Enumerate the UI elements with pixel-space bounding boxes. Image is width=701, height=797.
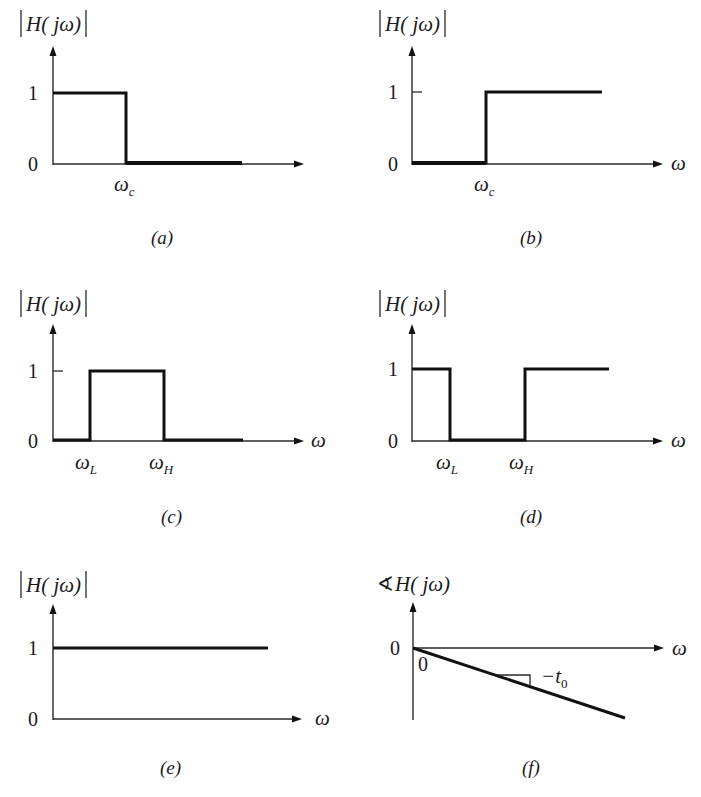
panel-f-linear-phase: ∢H( jω) 0 0 −t0 ω (f) bbox=[377, 572, 687, 779]
y-tick-0: 0 bbox=[388, 153, 398, 175]
panel-a-lowpass: H( jω) 1 0 ωc (a) bbox=[21, 10, 304, 249]
y-tick-0: 0 bbox=[388, 430, 398, 452]
panel-d-bandstop: H( jω) 1 0 ω ωL ωH (d) bbox=[380, 290, 686, 528]
y-axis-label: H( jω) bbox=[380, 10, 445, 37]
y-axis-arrow-icon bbox=[409, 324, 416, 334]
x-axis-arrow-icon bbox=[653, 438, 663, 445]
y-axis-arrow-icon bbox=[409, 46, 416, 56]
panel-b-highpass: H( jω) 1 0 ω ωc (b) bbox=[380, 10, 686, 249]
panel-e-allpass-magnitude: H( jω) 1 0 ω (e) bbox=[21, 571, 330, 779]
x-axis-label: ω bbox=[315, 706, 330, 730]
ylabel-text: H( jω) bbox=[25, 292, 81, 316]
y-axis-label: H( jω) bbox=[21, 571, 86, 598]
y-axis-arrow-icon bbox=[410, 602, 417, 612]
x-marker-wc: ωc bbox=[474, 172, 495, 199]
y-tick-0: 0 bbox=[28, 708, 38, 730]
filter-response-figure: H( jω) 1 0 ωc (a) H( jω) 1 0 ω ω bbox=[0, 0, 701, 797]
x-axis-arrow-icon bbox=[292, 716, 302, 723]
ylabel-text: H( jω) bbox=[25, 573, 81, 597]
caption-f: (f) bbox=[522, 757, 540, 779]
y-axis-label: ∢H( jω) bbox=[377, 572, 450, 596]
angle-icon: ∢ bbox=[377, 573, 394, 595]
origin-label: 0 bbox=[418, 653, 428, 675]
y-tick-1: 1 bbox=[388, 81, 398, 103]
x-marker-wh: ωH bbox=[149, 450, 174, 477]
x-axis-label: ω bbox=[311, 428, 326, 452]
y-tick-0: 0 bbox=[390, 637, 400, 659]
passband-line bbox=[486, 92, 602, 164]
y-tick-1: 1 bbox=[28, 360, 38, 382]
bandstop-response-line bbox=[412, 369, 609, 440]
panel-c-bandpass: H( jω) 1 0 ω ωL ωH (c) bbox=[21, 290, 326, 528]
y-tick-1: 1 bbox=[28, 82, 38, 104]
x-marker-wh: ωH bbox=[509, 450, 534, 477]
y-tick-1: 1 bbox=[388, 358, 398, 380]
slope-label: −t0 bbox=[541, 664, 568, 691]
y-axis-arrow-icon bbox=[50, 604, 57, 614]
y-axis-label: H( jω) bbox=[380, 290, 445, 317]
y-axis-arrow-icon bbox=[50, 324, 57, 334]
y-axis-label: H( jω) bbox=[21, 290, 86, 317]
ylabel-text: H( jω) bbox=[384, 292, 440, 316]
x-marker-wl: ωL bbox=[75, 450, 97, 477]
x-axis-arrow-icon bbox=[294, 438, 304, 445]
caption-c: (c) bbox=[161, 506, 182, 528]
caption-a: (a) bbox=[151, 227, 173, 249]
y-tick-1: 1 bbox=[28, 637, 38, 659]
phase-line bbox=[413, 648, 625, 718]
x-marker-wl: ωL bbox=[436, 450, 458, 477]
x-axis-arrow-icon bbox=[294, 161, 304, 168]
x-axis-arrow-icon bbox=[653, 161, 663, 168]
ylabel-text: H( jω) bbox=[384, 12, 440, 36]
passband-line bbox=[53, 93, 126, 164]
x-marker-wc: ωc bbox=[114, 172, 135, 199]
y-tick-0: 0 bbox=[28, 153, 38, 175]
caption-d: (d) bbox=[520, 506, 542, 528]
y-axis-arrow-icon bbox=[50, 46, 57, 56]
y-axis-label: H( jω) bbox=[21, 10, 86, 37]
caption-b: (b) bbox=[520, 227, 542, 249]
bandpass-response-line bbox=[53, 371, 243, 440]
x-axis-label: ω bbox=[671, 428, 686, 452]
x-axis-arrow-icon bbox=[654, 645, 664, 652]
x-axis-label: ω bbox=[672, 636, 687, 660]
x-axis-label: ω bbox=[671, 151, 686, 175]
y-tick-0: 0 bbox=[28, 430, 38, 452]
ylabel-text: H( jω) bbox=[25, 12, 81, 36]
caption-e: (e) bbox=[160, 757, 181, 779]
